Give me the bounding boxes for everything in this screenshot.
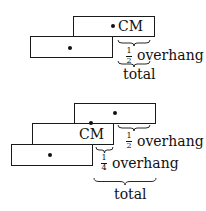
center-of-mass-dot	[111, 24, 115, 28]
total-label: total	[114, 187, 147, 201]
cm-label: CM	[118, 19, 143, 33]
block-center-dot	[48, 153, 52, 157]
total-label: total	[123, 67, 156, 81]
block-center-dot	[113, 111, 117, 115]
half-fraction: 12	[126, 132, 132, 150]
half-overhang-label: overhang	[137, 48, 204, 62]
cm-label: CM	[79, 127, 104, 141]
half-overhang-brace-icon	[117, 40, 151, 46]
quarter-fraction: 14	[101, 154, 107, 172]
block-center-dot	[68, 46, 72, 50]
half-overhang-label: overhang	[137, 134, 204, 148]
block-bottom	[11, 144, 93, 166]
half-overhang-brace-icon	[117, 125, 151, 131]
quarter-overhang-label: overhang	[112, 156, 179, 170]
total-brace-icon	[93, 178, 157, 185]
center-of-mass-dot	[89, 121, 93, 125]
